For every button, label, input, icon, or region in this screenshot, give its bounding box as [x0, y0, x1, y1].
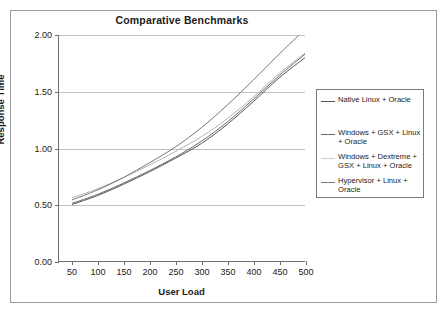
x-tick-mark [202, 261, 203, 265]
x-tick-mark [254, 261, 255, 265]
legend-label: Hypervisor + Linux + Oracle [338, 176, 421, 194]
x-tick-label: 150 [116, 267, 131, 277]
x-tick-label: 200 [142, 267, 157, 277]
y-tick-mark [55, 92, 59, 93]
x-tick-label: 400 [246, 267, 261, 277]
legend-line-swatch [321, 98, 335, 106]
y-tick-mark [55, 35, 59, 36]
legend-entry[interactable]: Native Linux + Oracle [321, 95, 421, 104]
x-tick-mark [124, 261, 125, 265]
y-tick-mark [55, 205, 59, 206]
chart-title: Comparative Benchmarks [58, 14, 306, 26]
series-line-3 [72, 53, 305, 198]
plot-area: 0.000.501.001.502.0050100150200250300350… [58, 35, 305, 262]
chart-legend: Native Linux + OracleWindows + GSX + Lin… [316, 89, 424, 198]
y-tick-label: 0.50 [34, 200, 52, 210]
legend-line-swatch [321, 179, 335, 187]
legend-label: Windows + Dextreme + GSX + Linux + Oracl… [338, 152, 421, 170]
legend-line-swatch [321, 155, 335, 163]
x-tick-mark [150, 261, 151, 265]
legend-entry[interactable]: Hypervisor + Linux + Oracle [321, 176, 421, 194]
x-tick-mark [98, 261, 99, 265]
x-tick-mark [228, 261, 229, 265]
series-curves [59, 35, 305, 261]
y-tick-label: 1.50 [34, 87, 52, 97]
y-tick-label: 2.00 [34, 30, 52, 40]
legend-label: Windows + GSX + Linux + Oracle [338, 128, 421, 146]
legend-entry[interactable]: Windows + Dextreme + GSX + Linux + Oracl… [321, 152, 421, 170]
legend-line-swatch [321, 131, 335, 139]
chart-figure: Comparative Benchmarks 0.000.501.001.502… [0, 0, 448, 319]
series-line-2 [72, 54, 305, 203]
x-tick-mark [306, 261, 307, 265]
series-line-4 [72, 35, 305, 200]
x-tick-label: 450 [272, 267, 287, 277]
x-tick-label: 100 [90, 267, 105, 277]
x-axis-label: User Load [58, 286, 305, 297]
x-tick-label: 350 [220, 267, 235, 277]
x-tick-label: 250 [168, 267, 183, 277]
y-axis-label: Response Time [0, 55, 6, 165]
y-tick-mark [55, 149, 59, 150]
legend-entry[interactable]: Windows + GSX + Linux + Oracle [321, 128, 421, 146]
x-tick-mark [280, 261, 281, 265]
series-line-1 [72, 58, 305, 205]
x-tick-label: 500 [298, 267, 313, 277]
x-tick-label: 300 [194, 267, 209, 277]
x-tick-label: 50 [67, 267, 77, 277]
x-tick-mark [72, 261, 73, 265]
legend-label: Native Linux + Oracle [338, 95, 411, 104]
y-tick-mark [55, 262, 59, 263]
x-tick-mark [176, 261, 177, 265]
y-tick-label: 1.00 [34, 144, 52, 154]
y-tick-label: 0.00 [34, 257, 52, 267]
